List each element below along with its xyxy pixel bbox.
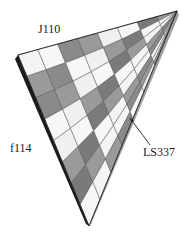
label-f114: f114 <box>10 142 32 154</box>
pointer-arrow <box>130 118 150 145</box>
label-j110: J110 <box>38 23 60 35</box>
arrow-line <box>130 118 150 145</box>
label-ls337: LS337 <box>143 146 175 158</box>
surface-diagram <box>0 0 186 241</box>
